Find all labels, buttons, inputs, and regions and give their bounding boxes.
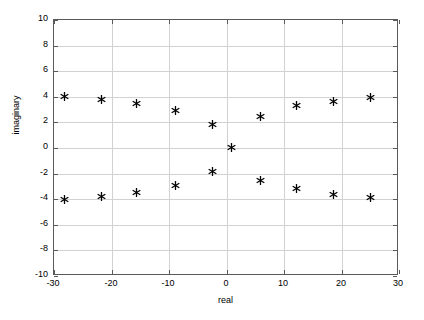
y-axis-tick: [393, 276, 397, 277]
y-axis-tick: [54, 97, 58, 98]
data-point-marker: [292, 184, 301, 193]
data-point-marker: [329, 97, 338, 106]
y-axis-tick: [393, 199, 397, 200]
gridline-horizontal: [54, 122, 397, 123]
x-axis-tick: [227, 270, 228, 274]
x-tick-label: 20: [321, 278, 361, 289]
gridline-horizontal: [54, 225, 397, 226]
x-axis-tick: [284, 270, 285, 274]
x-axis-tick: [169, 270, 170, 274]
x-axis-label: real: [53, 295, 398, 305]
y-tick-label: -10: [4, 269, 48, 280]
data-point-marker: [256, 176, 265, 185]
x-axis-tick: [284, 20, 285, 24]
data-point-marker: [329, 190, 338, 199]
data-point-marker: [171, 106, 180, 115]
gridline-vertical: [342, 20, 343, 274]
x-axis-tick: [54, 270, 55, 274]
gridline-vertical: [227, 20, 228, 274]
data-point-marker: [132, 188, 141, 197]
y-axis-tick: [54, 276, 58, 277]
y-axis-tick: [393, 225, 397, 226]
y-tick-label: 10: [4, 13, 48, 24]
y-tick-label: -2: [4, 167, 48, 178]
y-axis-tick: [54, 148, 58, 149]
y-axis-tick: [393, 71, 397, 72]
x-tick-label: 30: [378, 278, 418, 289]
y-axis-tick: [54, 122, 58, 123]
y-tick-label: 6: [4, 64, 48, 75]
y-tick-label: 8: [4, 39, 48, 50]
y-axis-tick: [54, 46, 58, 47]
y-axis-tick: [54, 199, 58, 200]
x-axis-tick: [342, 270, 343, 274]
gridline-horizontal: [54, 174, 397, 175]
y-tick-label: 0: [4, 141, 48, 152]
gridline-horizontal: [54, 97, 397, 98]
x-axis-tick: [342, 20, 343, 24]
y-tick-label: 4: [4, 90, 48, 101]
gridline-vertical: [169, 20, 170, 274]
x-axis-tick: [112, 270, 113, 274]
x-axis-tick: [399, 20, 400, 24]
x-axis-tick: [227, 20, 228, 24]
data-point-marker: [292, 101, 301, 110]
gridline-horizontal: [54, 148, 397, 149]
y-tick-label: -4: [4, 192, 48, 203]
gridline-vertical: [112, 20, 113, 274]
figure-canvas: real imaginary -30-20-100102030-10-8-6-4…: [0, 0, 424, 320]
y-tick-label: -8: [4, 243, 48, 254]
gridline-horizontal: [54, 71, 397, 72]
y-tick-label: 2: [4, 115, 48, 126]
x-tick-label: 0: [206, 278, 246, 289]
data-point-marker: [132, 99, 141, 108]
x-tick-label: -10: [148, 278, 188, 289]
x-axis-tick: [169, 20, 170, 24]
gridline-horizontal: [54, 46, 397, 47]
y-axis-tick: [393, 97, 397, 98]
y-axis-tick: [393, 20, 397, 21]
y-axis-tick: [393, 174, 397, 175]
x-axis-tick: [399, 270, 400, 274]
gridline-vertical: [284, 20, 285, 274]
data-point-marker: [366, 193, 375, 202]
y-axis-tick: [54, 225, 58, 226]
x-tick-label: 10: [263, 278, 303, 289]
data-point-marker: [256, 112, 265, 121]
y-axis-tick: [54, 250, 58, 251]
plot-area: [53, 19, 398, 275]
y-axis-tick: [393, 250, 397, 251]
y-axis-tick: [54, 174, 58, 175]
y-axis-tick: [393, 122, 397, 123]
y-axis-tick: [393, 46, 397, 47]
y-axis-tick: [393, 148, 397, 149]
y-axis-tick: [54, 71, 58, 72]
gridline-horizontal: [54, 199, 397, 200]
y-axis-tick: [54, 20, 58, 21]
gridline-horizontal: [54, 250, 397, 251]
y-tick-label: -6: [4, 218, 48, 229]
x-axis-tick: [112, 20, 113, 24]
x-tick-label: -20: [91, 278, 131, 289]
data-point-marker: [171, 181, 180, 190]
